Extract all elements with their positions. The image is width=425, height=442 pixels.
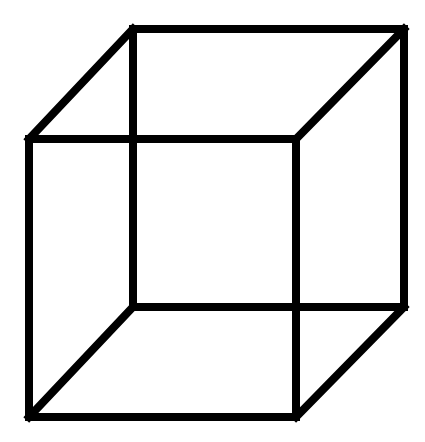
cube-wireframe — [0, 0, 425, 442]
bottom-right-connector — [296, 307, 404, 417]
necker-cube-diagram — [0, 0, 425, 442]
bottom-left-connector — [29, 307, 133, 417]
top-right-connector — [296, 29, 404, 139]
top-left-connector — [29, 29, 133, 139]
